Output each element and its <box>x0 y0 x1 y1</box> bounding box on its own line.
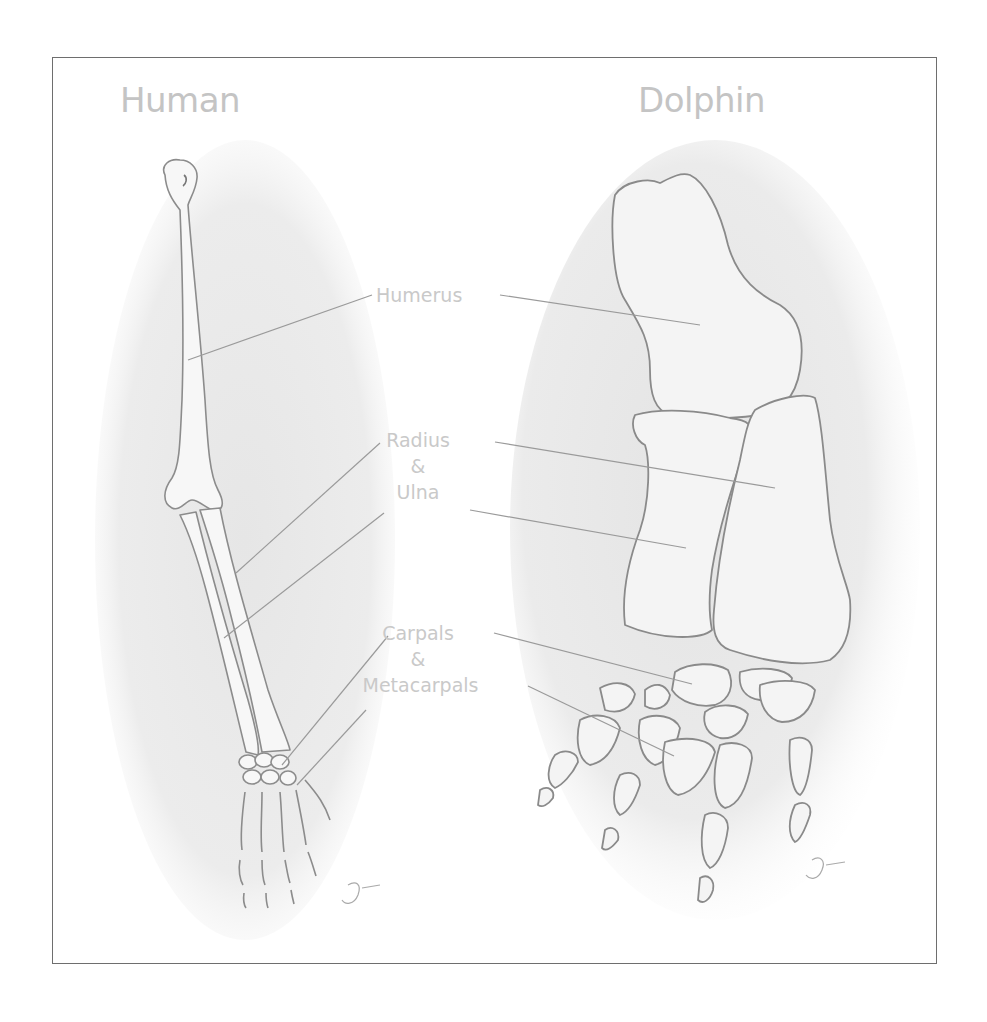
anatomy-illustration <box>0 0 987 1022</box>
label-radius-ulna-ampersand: & <box>383 453 453 479</box>
label-metacarpals: Metacarpals <box>358 672 483 698</box>
label-radius: Radius <box>383 427 453 453</box>
panel-title-human: Human <box>120 80 240 120</box>
artist-signature-left <box>342 883 380 903</box>
label-ulna: Ulna <box>383 479 453 505</box>
label-carpals: Carpals <box>363 620 473 646</box>
label-carpals-metacarpals-ampersand: & <box>363 646 473 672</box>
panel-title-dolphin: Dolphin <box>638 80 765 120</box>
label-humerus: Humerus <box>376 282 462 308</box>
